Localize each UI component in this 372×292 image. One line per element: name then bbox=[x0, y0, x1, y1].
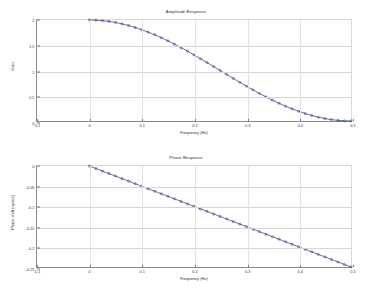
amplitude-curve-svg bbox=[37, 20, 351, 121]
y-axis-label-phase: Phase shift (cycles) bbox=[10, 189, 15, 237]
y-tick-mark bbox=[37, 186, 40, 187]
x-tick-label-phase: 0 bbox=[89, 269, 91, 274]
gridline-horizontal bbox=[37, 207, 351, 208]
x-tick-label-amplitude: 0.1 bbox=[140, 123, 145, 128]
y-tick-mark bbox=[37, 20, 40, 21]
gridline-vertical bbox=[142, 166, 143, 267]
data-line-amplitude bbox=[89, 20, 351, 121]
y-tick-mark bbox=[37, 227, 40, 228]
x-tick-mark bbox=[37, 265, 38, 268]
x-tick-mark bbox=[300, 265, 301, 268]
x-tick-label-amplitude: 0 bbox=[89, 123, 91, 128]
x-tick-label-phase: 0.2 bbox=[192, 269, 197, 274]
x-tick-label-amplitude: 0.2 bbox=[192, 123, 197, 128]
plot-title-phase: Phase Response bbox=[0, 155, 372, 160]
gridline-horizontal bbox=[37, 72, 351, 73]
gridline-vertical bbox=[90, 166, 91, 267]
x-tick-label-phase: 0.1 bbox=[140, 269, 145, 274]
figure-canvas: Amplitude Response Gain 00.511.52-0.100.… bbox=[0, 0, 372, 292]
y-tick-mark bbox=[37, 45, 40, 46]
y-tick-mark bbox=[37, 207, 40, 208]
x-tick-mark bbox=[300, 119, 301, 122]
plot-area-amplitude: 00.511.52-0.100.10.20.30.40.5 bbox=[36, 19, 352, 122]
x-tick-mark bbox=[90, 265, 91, 268]
gridline-vertical bbox=[195, 166, 196, 267]
y-tick-label-amplitude: 2 bbox=[32, 18, 34, 23]
x-tick-mark bbox=[248, 119, 249, 122]
y-tick-label-phase: -0.2 bbox=[28, 246, 35, 251]
y-tick-label-phase: -0.05 bbox=[26, 184, 35, 189]
gridline-horizontal bbox=[37, 187, 351, 188]
gridline-horizontal bbox=[37, 46, 351, 47]
y-tick-mark bbox=[37, 97, 40, 98]
x-tick-label-amplitude: 0.3 bbox=[245, 123, 250, 128]
x-tick-label-phase: 0.4 bbox=[298, 269, 303, 274]
x-tick-mark bbox=[90, 119, 91, 122]
x-tick-label-amplitude: 0.4 bbox=[298, 123, 303, 128]
y-tick-label-phase: 0 bbox=[32, 164, 34, 169]
x-tick-mark bbox=[353, 265, 354, 268]
x-tick-label-amplitude: -0.1 bbox=[34, 123, 41, 128]
y-tick-mark bbox=[37, 166, 40, 167]
y-tick-label-amplitude: 1 bbox=[32, 69, 34, 74]
x-tick-label-amplitude: 0.5 bbox=[350, 123, 355, 128]
y-tick-label-phase: -0.15 bbox=[26, 225, 35, 230]
gridline-horizontal bbox=[37, 97, 351, 98]
y-tick-label-phase: -0.1 bbox=[28, 205, 35, 210]
plot-area-phase: -0.25-0.2-0.15-0.1-0.050-0.100.10.20.30.… bbox=[36, 165, 352, 268]
y-tick-mark bbox=[37, 248, 40, 249]
x-tick-mark bbox=[195, 119, 196, 122]
plot-panel-phase: Phase Response Phase shift (cycles) -0.2… bbox=[0, 146, 372, 292]
x-tick-mark bbox=[353, 119, 354, 122]
y-tick-mark bbox=[37, 71, 40, 72]
plot-panel-amplitude: Amplitude Response Gain 00.511.52-0.100.… bbox=[0, 0, 372, 146]
x-tick-mark bbox=[142, 119, 143, 122]
x-tick-mark bbox=[248, 265, 249, 268]
gridline-vertical bbox=[248, 166, 249, 267]
data-line-phase bbox=[89, 166, 351, 267]
x-tick-label-phase: -0.1 bbox=[34, 269, 41, 274]
x-tick-mark bbox=[195, 265, 196, 268]
x-axis-label-phase: Frequency (Hz) bbox=[36, 276, 352, 281]
phase-curve-svg bbox=[37, 166, 351, 267]
gridline-vertical bbox=[248, 20, 249, 121]
y-axis-label-amplitude: Gain bbox=[10, 47, 15, 87]
gridline-vertical bbox=[142, 20, 143, 121]
gridline-vertical bbox=[300, 20, 301, 121]
gridline-horizontal bbox=[37, 248, 351, 249]
gridline-horizontal bbox=[37, 228, 351, 229]
gridline-vertical bbox=[195, 20, 196, 121]
gridline-vertical bbox=[90, 20, 91, 121]
x-tick-label-phase: 0.5 bbox=[350, 269, 355, 274]
plot-title-amplitude: Amplitude Response bbox=[0, 9, 372, 14]
x-tick-mark bbox=[142, 265, 143, 268]
y-tick-label-amplitude: 1.5 bbox=[29, 43, 34, 48]
x-tick-label-phase: 0.3 bbox=[245, 269, 250, 274]
x-axis-label-amplitude: Frequency (Hz) bbox=[36, 130, 352, 135]
y-tick-label-amplitude: 0.5 bbox=[29, 95, 34, 100]
x-tick-mark bbox=[37, 119, 38, 122]
gridline-vertical bbox=[300, 166, 301, 267]
